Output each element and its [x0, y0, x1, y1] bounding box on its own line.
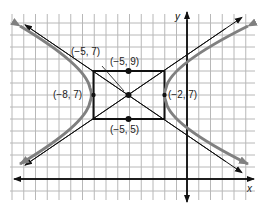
center-label: (−5, 7): [71, 47, 100, 57]
co-vertex-top-label: (−5, 9): [110, 57, 139, 67]
vertex-right-label: (−2, 7): [168, 90, 197, 100]
y-axis-label: y: [175, 12, 180, 22]
co-vertex-bottom-label: (−5, 5): [110, 125, 139, 135]
vertex-right-point: [162, 93, 166, 97]
x-axis-label: x: [247, 184, 252, 194]
co-vertex-bottom-point: [126, 116, 132, 122]
vertex-left-point: [91, 93, 95, 97]
vertex-left-label: (−8, 7): [53, 90, 82, 100]
hyperbola-graph: [0, 0, 262, 212]
center-leader-line: [102, 66, 124, 91]
center-point: [126, 92, 132, 98]
co-vertex-top-point: [126, 68, 132, 74]
